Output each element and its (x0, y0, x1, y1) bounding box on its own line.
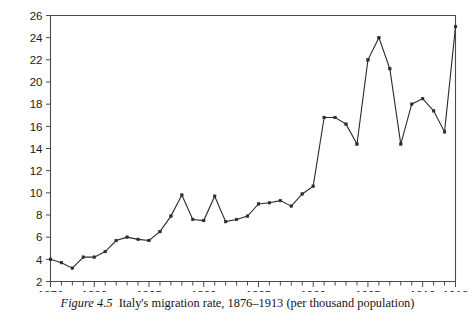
data-point-marker (443, 131, 446, 134)
data-point-marker (312, 185, 315, 188)
y-tick-label: 24 (30, 32, 43, 44)
data-point-marker (82, 256, 85, 259)
data-point-marker (454, 25, 457, 28)
x-tick-label: 1895 (246, 289, 272, 293)
x-tick-label: 1900 (300, 289, 326, 293)
data-point-marker (345, 123, 348, 126)
x-tick-label: 1890 (191, 289, 217, 293)
data-point-marker (356, 143, 359, 146)
data-point-marker (115, 239, 118, 242)
data-point-marker (246, 215, 249, 218)
figure-number: Figure 4.5 (61, 296, 113, 310)
data-point-marker (257, 203, 260, 206)
data-point-marker (432, 110, 435, 113)
data-point-marker (192, 218, 195, 221)
figure-container: 2468101214161820222426 18761880188518901… (0, 0, 475, 325)
series-line-migration-rate (51, 27, 456, 269)
y-tick-label: 22 (30, 54, 43, 66)
y-axis-tick-labels: 2468101214161820222426 (30, 10, 43, 288)
data-point-marker (378, 36, 381, 39)
y-tick-label: 18 (30, 98, 43, 110)
data-point-marker (268, 202, 271, 205)
data-point-marker (301, 193, 304, 196)
data-point-marker (213, 195, 216, 198)
data-point-marker (49, 258, 52, 261)
y-tick-label: 26 (30, 10, 43, 22)
data-point-marker (290, 205, 293, 208)
data-point-marker (202, 219, 205, 222)
caption-text: Italy's migration rate, 1876–1913 (per t… (119, 296, 415, 310)
y-tick-label: 10 (30, 187, 43, 199)
migration-rate-line-chart: 2468101214161820222426 18761880188518901… (0, 0, 475, 292)
y-tick-label: 14 (30, 143, 43, 155)
data-point-marker (279, 199, 282, 202)
data-point-marker (334, 116, 337, 119)
chart-axes (51, 16, 456, 282)
data-point-marker (104, 250, 107, 253)
data-point-marker (421, 97, 424, 100)
data-point-marker (148, 239, 151, 242)
y-tick-label: 16 (30, 121, 43, 133)
y-tick-label: 4 (36, 254, 43, 266)
x-tick-label: 1910 (410, 289, 436, 293)
y-tick-label: 6 (36, 231, 42, 243)
data-point-marker (159, 230, 162, 233)
data-point-marker (137, 238, 140, 241)
x-axis-tick-labels: 187618801885189018951900190519101913 (38, 289, 469, 293)
data-point-marker (399, 143, 402, 146)
x-tick-label: 1905 (355, 289, 381, 293)
y-tick-label: 8 (36, 209, 42, 221)
data-point-marker (60, 261, 63, 264)
data-point-marker (170, 215, 173, 218)
data-point-marker (410, 103, 413, 106)
y-tick-label: 12 (30, 165, 43, 177)
y-tick-label: 2 (36, 276, 42, 288)
data-point-marker (224, 220, 227, 223)
x-tick-label: 1880 (81, 289, 107, 293)
data-point-marker (93, 256, 96, 259)
data-point-marker (126, 236, 129, 239)
chart-plot-area: 2468101214161820222426 18761880188518901… (0, 0, 475, 292)
figure-caption: Figure 4.5 Italy's migration rate, 1876–… (0, 295, 475, 311)
series-markers (49, 25, 457, 269)
data-point-marker (389, 67, 392, 70)
x-tick-label: 1913 (443, 289, 469, 293)
data-point-marker (367, 59, 370, 62)
y-tick-label: 20 (30, 76, 43, 88)
x-tick-label: 1885 (136, 289, 162, 293)
data-point-marker (235, 218, 238, 221)
chart-tick-marks (46, 16, 456, 288)
data-point-marker (181, 194, 184, 197)
data-point-marker (323, 116, 326, 119)
x-tick-label: 1876 (38, 289, 64, 293)
data-point-marker (71, 267, 74, 270)
